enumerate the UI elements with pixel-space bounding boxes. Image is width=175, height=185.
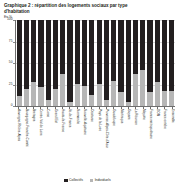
x-axis-label-cell: Nouvelle-Aquitaine [81, 107, 86, 165]
x-axis-tick-label: Occitanie [90, 109, 93, 122]
x-axis-tick-label: Île-de-France [68, 109, 71, 127]
bar-stack [111, 20, 116, 106]
bar-segment-collectifs [67, 20, 72, 102]
x-axis-tick-label: La Réunion [134, 109, 137, 125]
x-axis-tick-label: Nouvelle-Aquitaine [82, 109, 85, 135]
bar-stack [53, 20, 58, 106]
bar-segment-collectifs [24, 20, 29, 89]
bar-segment-collectifs [118, 20, 123, 91]
bar-stack [162, 20, 167, 106]
bar-segment-collectifs [104, 20, 109, 99]
bar-segment-collectifs [169, 20, 174, 91]
bar-group [16, 20, 175, 106]
y-axis: 0255075100 [4, 20, 15, 112]
bar-segment-collectifs [46, 20, 51, 100]
bar-segment-individuels [133, 74, 138, 107]
bar-segment-collectifs [17, 20, 22, 96]
x-axis-label-cell: Guadeloupe [111, 107, 116, 165]
x-axis-label-cell: Auvergne-Rhône-Alpes [16, 107, 21, 165]
x-axis-label-cell: Pays de la Loire [96, 107, 101, 165]
bar-segment-individuels [118, 92, 123, 107]
bar-segment-individuels [162, 91, 167, 106]
bar-segment-collectifs [82, 20, 87, 85]
bar-segment-collectifs [53, 20, 58, 89]
chart-legend: CollectifsIndividuels [0, 179, 175, 182]
bar-segment-individuels [75, 84, 80, 106]
legend-label: Individuels [95, 179, 111, 182]
bar-segment-individuels [89, 95, 94, 106]
bar-stack [89, 20, 94, 106]
x-axis-label-cell: Mayotte [140, 107, 145, 165]
bar-stack [75, 20, 80, 106]
bar-stack [31, 20, 36, 106]
x-axis-tick-label: Bourgogne-Franche-Comté [24, 109, 27, 147]
x-axis-label-cell: Grand Est [52, 107, 57, 165]
bar-segment-individuels [31, 82, 36, 106]
plot-area [15, 20, 175, 106]
bar-segment-individuels [155, 82, 160, 106]
bar-segment-individuels [24, 89, 29, 106]
x-axis-label-cell: Provence-Alpes-Côte d'Azur [103, 107, 108, 165]
x-axis-label-cell: France entière [162, 107, 167, 165]
bar-segment-individuels [169, 91, 174, 106]
x-axis-tick-label: Ensemble [170, 109, 173, 123]
x-axis-tick-label: Normandie [75, 109, 78, 124]
bar-segment-individuels [111, 81, 116, 107]
bar-stack [104, 20, 109, 106]
x-axis-label-cell: Île-de-France [67, 107, 72, 165]
x-axis-label-cell: Occitanie [89, 107, 94, 165]
bar-stack [17, 20, 22, 106]
bar-segment-individuels [38, 87, 43, 106]
bar-segment-individuels [147, 92, 152, 107]
bar-segment-individuels [53, 89, 58, 106]
x-axis-tick-label: Corse [46, 109, 49, 117]
x-axis-label-cell: Hauts-de-France [59, 107, 64, 165]
x-axis-label-cell: Bretagne [30, 107, 35, 165]
axis-unit-label: En % [4, 15, 174, 19]
x-axis-label-cell: Bourgogne-Franche-Comté [23, 107, 28, 165]
x-axis-label-cell: Normandie [74, 107, 79, 165]
bar-segment-collectifs [60, 20, 65, 73]
x-axis-tick-label: Hauts-de-France [61, 109, 64, 132]
y-axis-tick-label: 25 [9, 83, 13, 86]
bar-segment-collectifs [97, 20, 102, 84]
bar-stack [118, 20, 123, 106]
x-axis-tick-label: Grand Est [53, 109, 56, 123]
bar-segment-individuels [97, 84, 102, 106]
bar-segment-individuels [60, 74, 65, 107]
x-axis-label-cell: France métropolitaine [147, 107, 152, 165]
y-axis-tick-label: 0 [11, 105, 13, 108]
bar-segment-collectifs [89, 20, 94, 95]
x-axis-tick-label: France entière [163, 109, 166, 129]
bar-segment-collectifs [75, 20, 80, 84]
bar-stack [133, 20, 138, 106]
x-axis-tick-label: France métropolitaine [148, 109, 151, 139]
x-axis-tick-label: Guadeloupe [112, 109, 115, 126]
x-axis-label-cell: Centre-Val de Loire [38, 107, 43, 165]
x-axis-tick-label: Mayotte [141, 109, 144, 120]
bar-stack [126, 20, 131, 106]
x-axis-label-cell: DOM [155, 107, 160, 165]
bar-segment-collectifs [140, 20, 145, 70]
y-axis-tick-label: 75 [9, 40, 13, 43]
x-axis-label-cell: La Réunion [133, 107, 138, 165]
legend-label: Collectifs [69, 179, 83, 182]
bar-stack [169, 20, 174, 106]
x-axis-labels: Auvergne-Rhône-AlpesBourgogne-Franche-Co… [15, 107, 175, 165]
plot-area-wrapper: 0255075100 Auvergne-Rhône-AlpesBourgogne… [4, 20, 175, 112]
x-axis-label-cell: Guyane [125, 107, 130, 165]
x-axis-tick-label: Centre-Val de Loire [39, 109, 42, 136]
x-axis-tick-label: Auvergne-Rhône-Alpes [17, 109, 20, 141]
bar-stack [38, 20, 43, 106]
bar-segment-collectifs [147, 20, 152, 91]
x-axis-label-cell: Corse [45, 107, 50, 165]
bar-segment-collectifs [111, 20, 116, 80]
bar-stack [46, 20, 51, 106]
bar-segment-individuels [17, 96, 22, 106]
bar-segment-collectifs [155, 20, 160, 82]
bar-segment-individuels [82, 86, 87, 107]
chart-title: Graphique 2 : répartition des logements … [4, 3, 154, 14]
legend-item: Individuels [90, 179, 111, 182]
legend-swatch [90, 179, 93, 182]
bar-stack [82, 20, 87, 106]
